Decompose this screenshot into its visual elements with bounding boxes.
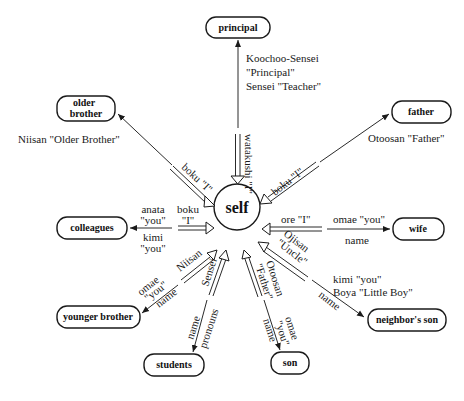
wife-term-name: name — [345, 234, 369, 246]
node-younger-brother: younger brother — [57, 306, 140, 328]
neighbors-son-term-kimi: kimi "you" — [333, 273, 381, 285]
wife-self-term: ore "I" — [281, 213, 310, 225]
colleagues-term-anata-gloss: "you" — [140, 214, 165, 226]
node-older-brother: older brother — [57, 96, 115, 121]
node-neighbors-son: neighbor's son — [368, 309, 446, 331]
principal-self-term: watakushi "I" — [243, 134, 255, 194]
father-term: Otoosan "Father" — [368, 132, 445, 144]
principal-term-2: "Principal" — [246, 66, 295, 78]
edge-self-to-older-brother — [118, 114, 172, 165]
node-principal-label: principal — [219, 22, 258, 33]
node-wife: wife — [393, 218, 444, 240]
students-term-pronouns: pronouns — [196, 307, 220, 350]
older-brother-term: Niisan "Older Brother" — [18, 133, 120, 145]
node-students-label: students — [156, 359, 192, 370]
node-colleagues: colleagues — [57, 217, 127, 239]
node-father: father — [392, 101, 451, 123]
wife-term: omae "you" — [333, 213, 385, 225]
younger-brother-self-term: Niisan — [174, 246, 204, 273]
node-younger-brother-label: younger brother — [63, 311, 133, 322]
node-principal: principal — [206, 17, 270, 38]
principal-term-1: Koochoo-Sensei — [246, 52, 319, 64]
edge-principal-to-self — [231, 134, 245, 184]
node-son-label: son — [283, 357, 298, 368]
father-self-term: boku "I" — [269, 165, 306, 197]
node-father-label: father — [408, 106, 435, 117]
self-label: self — [225, 199, 249, 216]
colleagues-self-term-gloss: "I" — [182, 214, 195, 226]
principal-term-3: Sensei "Teacher" — [246, 80, 321, 92]
node-older-brother-label-2: brother — [70, 108, 103, 119]
node-colleagues-label: colleagues — [70, 222, 113, 233]
neighbors-son-term-boya: Boya "Little Boy" — [333, 286, 413, 298]
node-students: students — [144, 354, 204, 376]
colleagues-term-kimi-gloss: "you" — [140, 242, 165, 254]
node-older-brother-label-1: older — [73, 97, 96, 108]
address-terms-diagram: self principal Koochoo-Sensei "Principal… — [0, 0, 464, 401]
node-wife-label: wife — [409, 223, 427, 234]
node-neighbors-son-label: neighbor's son — [376, 314, 438, 325]
node-son: son — [271, 352, 309, 374]
students-self-term: Sensei — [198, 257, 218, 288]
